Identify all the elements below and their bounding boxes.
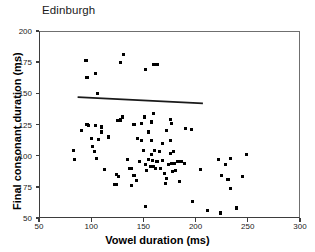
x-axis-tick-mark (247, 218, 248, 222)
x-axis-tick-label: 100 (76, 222, 106, 231)
x-axis-tick-mark (299, 218, 300, 222)
y-axis-tick-mark (36, 93, 40, 94)
x-axis-tick-mark (38, 218, 39, 222)
x-axis-tick-label: 200 (181, 222, 211, 231)
x-axis-tick-mark (195, 218, 196, 222)
x-axis-tick-label: 250 (233, 222, 263, 231)
y-axis-tick-mark (36, 30, 40, 31)
x-axis-tick-label: 300 (285, 222, 315, 231)
x-axis-tick-label: 150 (128, 222, 158, 231)
scatter-chart-figure: Edinburgh 5075100125150175200 5010015020… (0, 0, 315, 252)
y-axis-tick-mark (36, 155, 40, 156)
x-axis-tick-label: 50 (24, 222, 54, 231)
chart-title: Edinburgh (42, 4, 95, 16)
y-axis-tick-mark (36, 124, 40, 125)
x-axis-tick-mark (143, 218, 144, 222)
y-axis-tick-label: 200 (10, 27, 32, 36)
y-axis-title: Final consonant duration (ms) (11, 52, 23, 210)
x-axis-tick-mark (91, 218, 92, 222)
y-axis-tick-mark (36, 186, 40, 187)
plot-area (39, 31, 300, 218)
x-axis-title: Vowel duration (ms) (0, 234, 315, 246)
y-axis-tick-mark (36, 61, 40, 62)
